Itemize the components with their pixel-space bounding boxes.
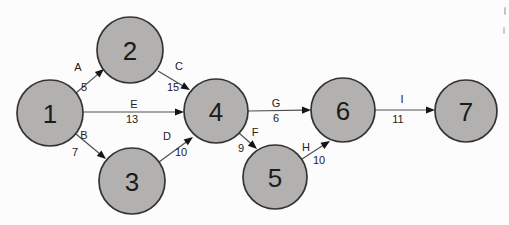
edge-E-duration-value: 13 (126, 113, 138, 125)
edge-I: I11 (375, 93, 435, 125)
edge-H-duration-value: 10 (313, 154, 325, 166)
node-3: 3 (99, 148, 165, 214)
edge-A: A5 (74, 61, 104, 93)
node-5: 5 (243, 145, 307, 209)
node-7-number: 7 (459, 97, 473, 127)
edge-A-duration-value: 5 (81, 81, 87, 93)
edge-G-arrowhead-icon (302, 107, 311, 114)
edge-E: E13 (83, 98, 184, 125)
edge-H: H10 (302, 141, 330, 166)
edge-C-activity-label: C (175, 60, 183, 72)
scan-artifact-1 (504, 7, 506, 15)
node-1: 1 (17, 80, 83, 146)
node-5-number: 5 (268, 163, 282, 193)
edge-D: D10 (159, 130, 193, 162)
node-4: 4 (184, 79, 248, 143)
edge-I-duration-value: 11 (392, 113, 403, 125)
edge-C-arrowhead-icon (180, 82, 190, 90)
edge-I-activity-label: I (400, 93, 403, 105)
edge-G-line (248, 110, 304, 111)
edge-C: C15 (158, 60, 190, 93)
edge-G-activity-label: G (272, 97, 281, 109)
diagram-canvas: A5C15E13B7D10G6F9H10I111234567 (0, 0, 509, 225)
edge-G: G6 (248, 97, 311, 124)
node-1-number: 1 (43, 99, 57, 129)
edge-B-duration-value: 7 (72, 146, 78, 158)
scan-artifact-2 (503, 27, 505, 34)
edge-A-activity-label: A (74, 61, 82, 73)
node-7: 7 (435, 80, 497, 142)
edge-A-line (76, 74, 98, 93)
edge-H-arrowhead-icon (320, 141, 330, 149)
edge-F-activity-label: F (252, 126, 259, 138)
node-6-number: 6 (336, 96, 350, 126)
node-2-number: 2 (123, 36, 137, 66)
edge-E-arrowhead-icon (175, 108, 184, 115)
edge-G-duration-value: 6 (273, 112, 279, 124)
node-3-number: 3 (125, 167, 139, 197)
activity-network-diagram: A5C15E13B7D10G6F9H10I111234567 (0, 0, 509, 225)
node-6: 6 (311, 78, 375, 142)
edge-I-arrowhead-icon (426, 106, 435, 113)
edge-F-duration-value: 9 (238, 142, 244, 154)
node-4-number: 4 (209, 97, 223, 127)
edge-D-activity-label: D (163, 130, 171, 142)
node-2: 2 (97, 17, 163, 83)
edge-E-activity-label: E (130, 98, 137, 110)
edge-H-activity-label: H (302, 141, 310, 153)
edge-B-activity-label: B (80, 129, 87, 141)
edge-C-duration-value: 15 (167, 81, 179, 93)
edge-D-duration-value: 10 (175, 146, 187, 158)
edge-D-arrowhead-icon (184, 137, 193, 145)
edge-B: B7 (72, 129, 106, 159)
